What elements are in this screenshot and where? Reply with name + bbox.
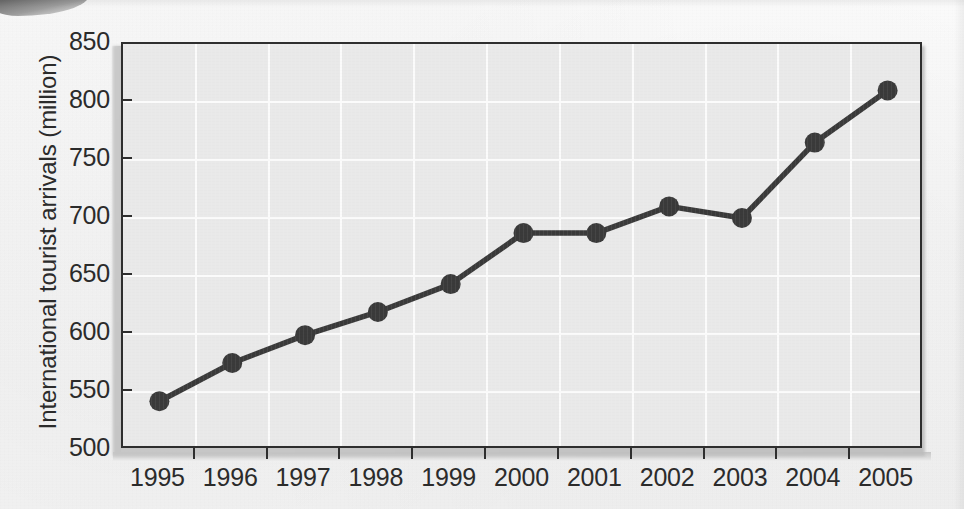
x-tick-mark xyxy=(411,448,413,459)
series-line xyxy=(123,44,922,448)
y-tick-mark xyxy=(121,331,132,333)
data-point-marker xyxy=(878,80,898,100)
x-tick-mark xyxy=(848,448,850,459)
data-point-marker xyxy=(659,196,679,216)
x-tick-label: 2005 xyxy=(841,465,931,490)
line-chart: 500550600650700750800850 199519961997199… xyxy=(0,0,964,509)
x-tick-mark xyxy=(775,448,777,459)
x-tick-mark xyxy=(266,448,268,459)
data-point-marker xyxy=(732,208,752,228)
data-point-marker xyxy=(514,223,534,243)
x-tick-mark xyxy=(193,448,195,459)
data-point-marker xyxy=(586,223,606,243)
x-tick-mark xyxy=(630,448,632,459)
x-tick-mark xyxy=(338,448,340,459)
y-axis-title: International tourist arrivals (million) xyxy=(34,32,62,452)
y-tick-mark xyxy=(121,157,132,159)
data-point-marker xyxy=(805,133,825,153)
y-tick-mark xyxy=(121,99,132,101)
plot-area xyxy=(121,42,922,448)
data-point-marker xyxy=(368,302,388,322)
data-point-marker xyxy=(441,274,461,294)
x-tick-mark xyxy=(484,448,486,459)
series-polyline xyxy=(159,90,887,401)
data-point-marker xyxy=(149,391,169,411)
x-tick-mark xyxy=(703,448,705,459)
chart-page: 500550600650700750800850 199519961997199… xyxy=(0,0,964,509)
y-tick-mark xyxy=(121,273,132,275)
data-point-marker xyxy=(222,353,242,373)
y-tick-mark xyxy=(121,215,132,217)
x-tick-mark xyxy=(557,448,559,459)
data-point-marker xyxy=(295,325,315,345)
y-tick-mark xyxy=(121,389,132,391)
